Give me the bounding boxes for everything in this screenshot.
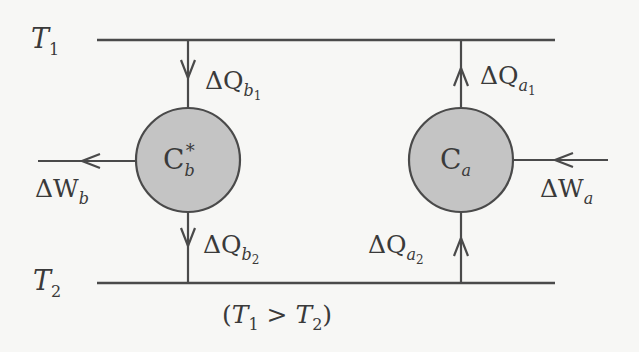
cond-op: > — [259, 300, 296, 329]
dqb2-label: ΔQb2 — [203, 232, 259, 257]
dqa2-sub: a — [407, 245, 417, 264]
dqb1-delta: ΔQ — [205, 66, 244, 95]
engine-b-label: Cb* — [163, 146, 195, 174]
cond-lhs-index: 1 — [248, 315, 258, 334]
dqa1-label: ΔQa1 — [480, 63, 536, 88]
cond-rhs-index: 2 — [312, 315, 322, 334]
dwb-label: ΔWb — [35, 176, 89, 201]
dwb-delta: ΔW — [35, 174, 79, 203]
t1-symbol: T — [31, 23, 49, 54]
t2-index: 2 — [51, 282, 61, 301]
cond-close: ) — [322, 300, 332, 329]
dqb1-subsub: 1 — [254, 89, 262, 103]
cond-lhs-symbol: T — [232, 300, 249, 329]
engine-b-sub: b — [184, 161, 194, 180]
engine-a-symbol: C — [440, 143, 461, 176]
temperature-condition: (T1 > T2) — [222, 302, 332, 327]
engine-b-symbol: C — [163, 143, 184, 176]
cond-rhs-symbol: T — [295, 300, 312, 329]
cond-open: ( — [222, 300, 232, 329]
dwa-sub: a — [584, 189, 594, 208]
dqb1-sub: b — [244, 81, 254, 100]
dqb2-subsub: 2 — [252, 253, 260, 267]
dwb-sub: b — [79, 189, 89, 208]
t1-index: 1 — [49, 40, 59, 59]
engine-a-sub: a — [461, 161, 471, 180]
heat-engine-diagram: T1 T2 ΔQb1 ΔQb2 ΔQa1 ΔQa2 ΔWb ΔWa Cb* Ca… — [0, 0, 639, 352]
t2-symbol: T — [33, 265, 51, 296]
dqa1-delta: ΔQ — [480, 61, 519, 90]
hot-reservoir-label: T1 — [31, 25, 59, 52]
cold-reservoir-label: T2 — [33, 267, 61, 294]
engine-a-label: Ca — [440, 146, 471, 174]
dqb2-sub: b — [242, 245, 252, 264]
dwa-delta: ΔW — [540, 174, 584, 203]
dqa2-delta: ΔQ — [368, 230, 407, 259]
dqa2-subsub: 2 — [416, 253, 424, 267]
dqb1-label: ΔQb1 — [205, 68, 261, 93]
dqa1-sub: a — [519, 76, 529, 95]
dqa2-label: ΔQa2 — [368, 232, 424, 257]
dqa1-subsub: 1 — [528, 84, 536, 98]
engine-b-sup: * — [186, 140, 195, 161]
dqb2-delta: ΔQ — [203, 230, 242, 259]
dwa-label: ΔWa — [540, 176, 593, 201]
